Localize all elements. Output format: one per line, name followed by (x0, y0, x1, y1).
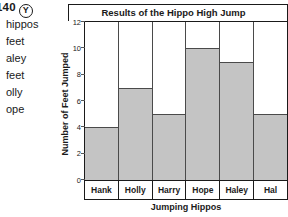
x-axis-category-label: Holly (118, 181, 152, 199)
bar-cell (85, 22, 118, 180)
bar-harry (153, 114, 186, 180)
chart-title: Results of the Hippo High Jump (59, 7, 288, 18)
x-axis-category-label: Hal (253, 181, 287, 199)
x-axis-category-label: Hank (85, 181, 118, 199)
y-axis-tick-label: 6 (62, 98, 81, 106)
plot-area: 024681012 (84, 21, 288, 181)
bar-hal (254, 114, 287, 180)
bar-cell (152, 22, 186, 180)
page-number-text: e 140 (0, 1, 16, 13)
circled-letter-badge: Y (19, 4, 33, 18)
y-axis-tick-label: 12 (62, 19, 81, 27)
y-axis-tick-label: 4 (62, 124, 81, 132)
margin-line: feet (6, 69, 24, 81)
bar-cell (185, 22, 219, 180)
worksheet-margin-text: e 140Y hippos feet aley feet olly ope (0, 0, 56, 217)
worksheet-page: e 140Y hippos feet aley feet olly ope Re… (0, 0, 288, 217)
margin-line: hippos (6, 18, 38, 30)
bar-haley (220, 62, 253, 181)
y-axis-tick-label: 8 (62, 71, 81, 79)
y-axis-tick-label: 10 (62, 45, 81, 53)
margin-line: feet (6, 35, 24, 47)
bar-hope (186, 48, 219, 180)
bar-holly (119, 88, 152, 180)
bar-cell (253, 22, 287, 180)
margin-line: ope (6, 103, 24, 115)
y-axis-tick-label: 2 (62, 150, 81, 158)
x-axis-label: Jumping Hippos (84, 202, 288, 212)
x-axis-category-label: Hope (185, 181, 219, 199)
x-axis-category-label: Haley (219, 181, 253, 199)
margin-line: aley (6, 52, 26, 64)
margin-line: olly (6, 86, 23, 98)
bar-cell (118, 22, 152, 180)
page-number: e 140Y (0, 1, 33, 18)
x-axis-categories: HankHollyHarryHopeHaleyHal (84, 181, 288, 200)
bar-chart: Results of the Hippo High Jump Number of… (59, 4, 288, 217)
bar-series (85, 22, 287, 180)
y-axis-tick-label: 0 (62, 177, 81, 185)
bar-cell (219, 22, 253, 180)
x-axis-category-label: Harry (152, 181, 186, 199)
bar-hank (85, 127, 118, 180)
